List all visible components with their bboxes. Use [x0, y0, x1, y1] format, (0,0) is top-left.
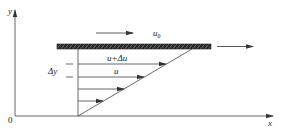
origin-label: 0: [8, 115, 13, 125]
profile-envelope: [78, 49, 192, 116]
velocity-profile: u+Δu u Δy: [47, 49, 192, 116]
u-plus-du-label: u+Δu: [107, 53, 128, 63]
plate-bar: [57, 44, 211, 49]
x-axis-label: x: [267, 118, 272, 128]
u-label: u: [114, 66, 119, 76]
dy-label: Δy: [47, 66, 57, 76]
moving-plate: u0: [57, 28, 253, 49]
couette-flow-diagram: y x 0 u0 u+Δu u Δy: [0, 0, 283, 137]
plate-velocity-label: u0: [153, 28, 161, 39]
y-axis-label: y: [7, 6, 12, 16]
axes: y x 0: [7, 6, 273, 128]
